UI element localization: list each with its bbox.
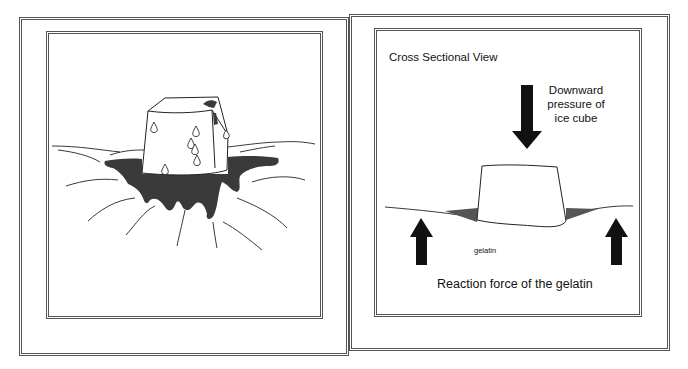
ice-cube-cross-section [477,165,566,227]
downward-label-line3: ice cube [541,111,611,125]
downward-label-line2: pressure of [541,97,611,111]
upward-arrow-left [410,218,433,265]
ice-cube-on-gelatin-illustration [0,0,688,369]
downward-label-line1: Downward [541,83,611,97]
upward-arrow-right [605,218,628,265]
gelatin-label: gelatin [474,246,496,255]
cross-sectional-view-title: Cross Sectional View [389,51,497,63]
downward-pressure-label: Downward pressure of ice cube [541,83,611,125]
downward-arrow [512,85,542,149]
reaction-force-label: Reaction force of the gelatin [437,277,593,291]
